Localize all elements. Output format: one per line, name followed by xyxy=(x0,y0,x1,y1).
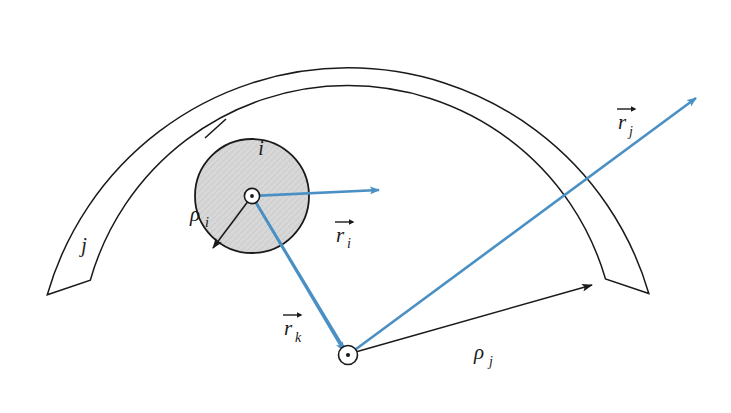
label-rho-i-symbol: ρ xyxy=(189,202,200,226)
body-j-band xyxy=(47,68,649,295)
label-rho-j-subscript: j xyxy=(487,354,493,369)
label-r-i-subscript: i xyxy=(347,236,351,251)
figure-canvas: i j ρ i ρ j r i r j xyxy=(0,0,731,413)
label-r-j-subscript: j xyxy=(627,124,633,139)
vector-diagram: i j ρ i ρ j r i r j xyxy=(0,0,731,413)
body-j-outline xyxy=(47,68,649,295)
label-r-k-subscript: k xyxy=(295,330,302,345)
label-r-j-symbol: r xyxy=(618,110,627,134)
label-r-j: r j xyxy=(617,106,636,139)
rho-j-arrow xyxy=(352,285,592,353)
label-r-i-symbol: r xyxy=(336,223,345,247)
label-rho-j-symbol: ρ xyxy=(473,340,484,364)
label-r-k: r k xyxy=(283,312,302,345)
label-r-k-symbol: r xyxy=(284,316,293,340)
origin-marker xyxy=(339,346,358,365)
label-rho-j: ρ j xyxy=(473,340,493,369)
label-rho-i-subscript: i xyxy=(205,215,209,230)
r-k-overarrow-head-icon xyxy=(297,312,302,318)
label-body-i: i xyxy=(258,137,264,159)
r-i-overarrow-head-icon xyxy=(349,219,354,225)
body-i-center-marker xyxy=(244,188,259,203)
r-j-overarrow-head-icon xyxy=(631,106,636,112)
label-r-i: r i xyxy=(335,219,354,251)
